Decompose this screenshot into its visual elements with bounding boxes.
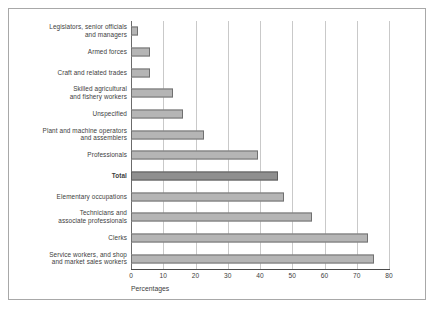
bar: [131, 47, 150, 56]
x-tick-label-30: 30: [224, 272, 231, 279]
x-tick-label-0: 0: [129, 272, 133, 279]
x-axis-line: [131, 269, 390, 270]
x-tick-label-40: 40: [256, 272, 263, 279]
bar-rows: Legislators, senior officials and manage…: [9, 21, 427, 269]
chart-row: Technicians and associate professionals: [9, 207, 427, 228]
chart-row: Clerks: [9, 228, 427, 249]
category-label: Plant and machine operators and assemble…: [15, 127, 127, 142]
chart-row: Total: [9, 166, 427, 187]
x-tick-label-20: 20: [192, 272, 199, 279]
bar: [131, 254, 374, 263]
x-tick-label-70: 70: [353, 272, 360, 279]
bar: [131, 233, 368, 242]
x-tick-label-10: 10: [160, 272, 167, 279]
category-label: Clerks: [15, 234, 127, 242]
bar: [131, 68, 150, 77]
chart-row: Professionals: [9, 145, 427, 166]
category-label: Craft and related trades: [15, 69, 127, 77]
chart-row: Elementary occupations: [9, 186, 427, 207]
bar: [131, 27, 138, 36]
chart-row: Craft and related trades: [9, 62, 427, 83]
category-label: Technicians and associate professionals: [15, 210, 127, 225]
x-tick-label-80: 80: [385, 272, 392, 279]
bar: [131, 171, 278, 180]
bar: [131, 151, 258, 160]
chart-row: Service workers, and shop and market sal…: [9, 248, 427, 269]
chart-figure: Legislators, senior officials and manage…: [8, 8, 426, 300]
bar: [131, 192, 284, 201]
chart-row: Skilled agricultural and fishery workers: [9, 83, 427, 104]
category-label: Total: [15, 172, 127, 180]
bar: [131, 109, 183, 118]
bar: [131, 89, 173, 98]
category-label: Professionals: [15, 152, 127, 160]
chart-row: Plant and machine operators and assemble…: [9, 124, 427, 145]
bar: [131, 213, 312, 222]
bar: [131, 130, 204, 139]
x-tick-label-50: 50: [289, 272, 296, 279]
chart-row: Unspecified: [9, 104, 427, 125]
category-label: Armed forces: [15, 48, 127, 56]
x-axis-title: Percentages: [131, 285, 169, 292]
category-label: Legislators, senior officials and manage…: [15, 24, 127, 39]
category-label: Skilled agricultural and fishery workers: [15, 86, 127, 101]
category-label: Elementary occupations: [15, 193, 127, 201]
category-label: Service workers, and shop and market sal…: [15, 251, 127, 266]
category-label: Unspecified: [15, 110, 127, 118]
chart-row: Legislators, senior officials and manage…: [9, 21, 427, 42]
chart-row: Armed forces: [9, 42, 427, 63]
x-tick-label-60: 60: [321, 272, 328, 279]
